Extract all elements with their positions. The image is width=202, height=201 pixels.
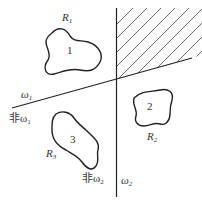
region-2-shape — [134, 89, 173, 126]
region-2-label: R2 — [146, 130, 158, 144]
region-3-number: 3 — [70, 133, 76, 145]
region-1-shape — [45, 29, 101, 75]
boundary-not-w2-label: 非ω2 — [82, 172, 104, 186]
boundary-w2-label: ω2 — [121, 174, 133, 188]
hatched-region — [117, 6, 202, 86]
boundary-w1-line — [12, 58, 192, 108]
region-1-number: 1 — [67, 44, 73, 56]
diagram-canvas: 1 2 3 R1 R2 R3 ω1 非ω1 非ω2 ω2 — [0, 0, 202, 201]
boundary-not-w1-label: 非ω1 — [9, 112, 31, 126]
region-3-label: R3 — [45, 147, 57, 161]
decision-region-diagram: 1 2 3 R1 R2 R3 ω1 非ω1 非ω2 ω2 — [0, 0, 202, 201]
boundary-w1-label: ω1 — [21, 88, 32, 102]
region-1-label: R1 — [61, 11, 72, 25]
region-2-number: 2 — [147, 100, 153, 112]
